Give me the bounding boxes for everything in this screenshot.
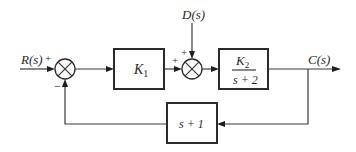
feedback-block-arrow-icon (217, 121, 225, 127)
k1-input-arrow-icon (106, 66, 114, 72)
sum1-plus-sign: + (45, 52, 51, 64)
output-signal-label: C(s) (308, 52, 330, 67)
plant-block: K2 s + 2 (219, 49, 268, 89)
block-diagram: R(s) + − K1 + D(s) + K2 s + 2 C(s) (0, 0, 356, 152)
sum1-minus-sign: − (54, 79, 61, 93)
input-signal-label: R(s) (20, 52, 43, 67)
summing-junction-1 (55, 59, 75, 79)
controller-block: K1 (114, 49, 164, 89)
output-arrow-icon (332, 66, 341, 72)
sum2-left-arrow-icon (174, 66, 182, 72)
feedback-block: s + 1 (167, 103, 217, 143)
plant-denominator: s + 2 (233, 73, 258, 87)
feedback-arrow-icon (62, 79, 68, 87)
disturbance-signal-label: D(s) (181, 7, 205, 22)
feedback-return-line (65, 86, 167, 124)
disturbance-arrow-icon (189, 51, 195, 59)
input-arrow-icon (47, 66, 55, 72)
summing-junction-2 (182, 59, 202, 79)
feedback-block-label: s + 1 (179, 117, 204, 131)
sum2-left-plus-sign: + (172, 54, 178, 66)
plant-input-arrow-icon (211, 66, 219, 72)
sum2-top-plus-sign: + (181, 46, 187, 58)
